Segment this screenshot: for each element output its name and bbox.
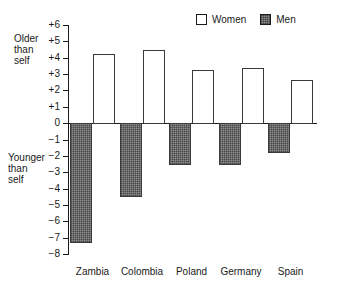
bar-men (268, 123, 290, 152)
y-tick-label: −2 (34, 151, 60, 161)
y-tick-label: −7 (34, 233, 60, 243)
y-tick-mark (63, 205, 68, 206)
y-tick-label: +4 (34, 53, 60, 63)
bar-women (291, 80, 313, 124)
bar-men (120, 123, 142, 197)
y-tick-mark (63, 90, 68, 91)
x-category-label: Poland (176, 267, 207, 277)
x-category-label: Colombia (121, 267, 163, 277)
y-tick-mark (63, 25, 68, 26)
y-tick-label: −5 (34, 200, 60, 210)
y-tick-mark (63, 221, 68, 222)
y-tick-mark (63, 107, 68, 108)
bar-men (219, 123, 241, 165)
x-category-label: Germany (220, 267, 261, 277)
x-category-label: Zambia (76, 267, 109, 277)
y-tick-mark (63, 189, 68, 190)
y-tick-mark (63, 140, 68, 141)
bar-women (143, 50, 165, 125)
y-tick-mark (63, 74, 68, 75)
y-tick-label: −8 (34, 249, 60, 259)
age-perception-bar-chart: Women Men Older than self Younger than s… (0, 0, 344, 294)
bar-men (70, 123, 92, 242)
y-tick-mark (63, 123, 68, 124)
y-tick-label: −6 (34, 216, 60, 226)
bar-men (169, 123, 191, 165)
y-tick-label: +1 (34, 102, 60, 112)
y-tick-mark (63, 41, 68, 42)
y-tick-label: +6 (34, 20, 60, 30)
y-tick-label: +2 (34, 85, 60, 95)
y-tick-label: +3 (34, 69, 60, 79)
y-tick-label: 0 (34, 118, 60, 128)
y-tick-label: −1 (34, 135, 60, 145)
y-tick-label: −4 (34, 184, 60, 194)
y-tick-mark (63, 238, 68, 239)
y-tick-mark (63, 156, 68, 157)
y-axis-line (68, 25, 69, 255)
y-tick-mark (63, 172, 68, 173)
y-tick-mark (63, 254, 68, 255)
bar-women (93, 54, 115, 124)
bar-women (242, 68, 264, 124)
y-tick-label: +5 (34, 36, 60, 46)
y-tick-label: −3 (34, 167, 60, 177)
bar-women (192, 70, 214, 124)
plot-area: +6+5+4+3+2+10−1−2−3−4−5−6−7−8 ZambiaColo… (0, 0, 344, 294)
x-category-label: Spain (278, 267, 304, 277)
y-tick-mark (63, 58, 68, 59)
